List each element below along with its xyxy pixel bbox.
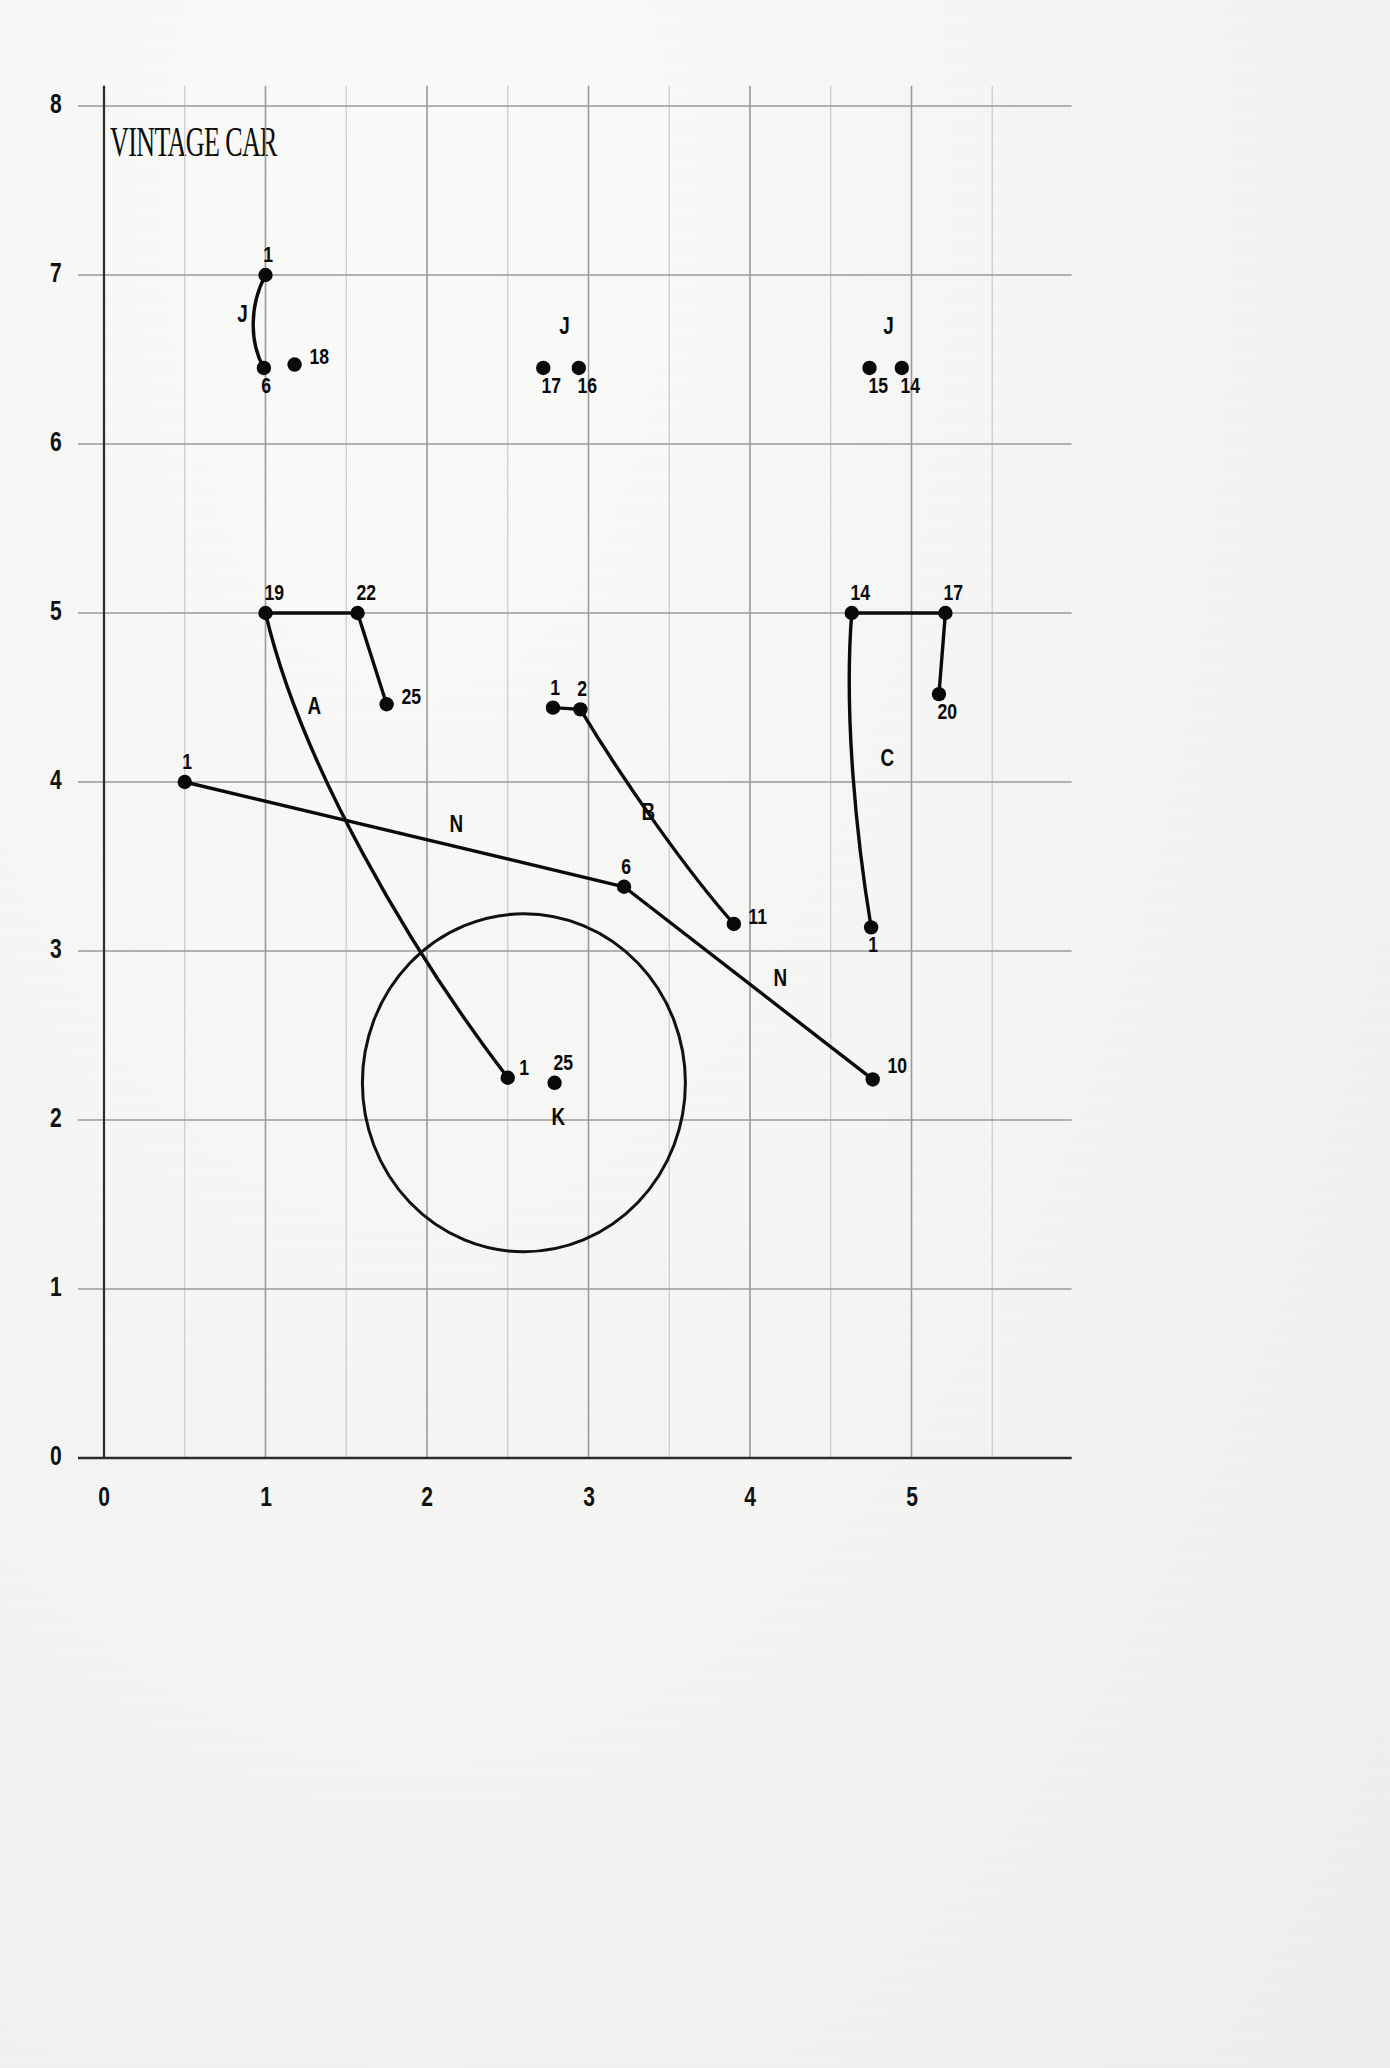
point-label-p5: 16 [577,373,597,399]
data-point-p16[interactable] [178,775,192,789]
curve-label-c3: J [883,313,893,340]
data-point-p8[interactable] [258,606,272,620]
data-point-p10[interactable] [379,697,393,711]
point-label-p6: 15 [868,373,888,399]
curve-seg-22-25 [358,613,387,704]
chart-plot-area [0,0,1390,2068]
data-point-p12[interactable] [938,606,952,620]
point-label-p9: 22 [356,580,376,606]
data-point-p18[interactable] [727,917,741,931]
point-label-p14: 1 [550,675,560,701]
point-label-p12: 17 [944,580,964,606]
data-point-p15[interactable] [573,702,587,716]
point-label-p8: 19 [264,580,284,606]
data-point-p14[interactable] [546,700,560,714]
y-axis-tick-2: 2 [30,1103,61,1134]
circle-k [362,914,685,1252]
x-axis-tick-2: 2 [411,1482,442,1513]
point-label-p4: 17 [542,373,562,399]
point-label-p19: 1 [868,932,878,958]
point-label-p11: 14 [850,580,870,606]
y-axis-tick-6: 6 [30,427,61,458]
x-axis-tick-0: 0 [88,1482,119,1513]
point-label-p16: 1 [182,749,192,775]
point-label-p18: 11 [748,904,767,930]
data-point-p17[interactable] [617,880,631,894]
curve-label-c5: B [642,799,656,826]
curve-seg-N1 [185,782,624,887]
curve-label-c7: N [449,811,463,838]
curve-label-c4: A [307,693,321,720]
point-label-p7: 14 [900,373,920,399]
y-axis-tick-4: 4 [30,765,61,796]
point-label-p22: 25 [553,1050,573,1076]
point-label-p13: 20 [937,699,957,725]
y-axis-tick-3: 3 [30,934,61,965]
curve-label-c1: J [237,301,247,328]
x-axis-tick-5: 5 [896,1482,927,1513]
y-axis-tick-8: 8 [30,89,61,120]
point-label-p20: 10 [887,1053,907,1079]
point-label-p2: 6 [261,373,271,399]
x-axis-tick-1: 1 [250,1482,281,1513]
point-label-p15: 2 [578,676,588,702]
data-point-p1[interactable] [258,268,272,282]
curve-curve-A [266,613,508,1078]
point-label-p17: 6 [621,854,631,880]
x-axis-tick-4: 4 [734,1482,765,1513]
data-point-p20[interactable] [866,1072,880,1086]
grid-lines [78,86,1072,1458]
curve-seg-17-20 [939,613,945,694]
curve-label-c2: J [559,313,569,340]
y-axis-tick-0: 0 [30,1441,61,1472]
curve-curve-J [253,275,265,368]
curve-label-c8: N [774,965,788,992]
point-label-p10: 25 [401,684,421,710]
data-point-p21[interactable] [501,1071,515,1085]
curve-curve-C [849,613,871,927]
data-point-p3[interactable] [287,357,301,371]
y-axis-tick-1: 1 [30,1272,61,1303]
curve-label-c9: K [551,1104,565,1131]
data-point-p9[interactable] [350,606,364,620]
curve-curve-B [580,709,733,924]
point-label-p21: 1 [519,1055,529,1081]
data-points [178,268,953,1090]
y-axis-tick-5: 5 [30,596,61,627]
data-point-p22[interactable] [547,1076,561,1090]
point-label-p1: 1 [263,242,273,268]
x-axis-tick-3: 3 [573,1482,604,1513]
data-point-p11[interactable] [845,606,859,620]
curve-label-c6: C [881,745,895,772]
point-label-p3: 18 [309,344,329,370]
y-axis-tick-7: 7 [30,258,61,289]
